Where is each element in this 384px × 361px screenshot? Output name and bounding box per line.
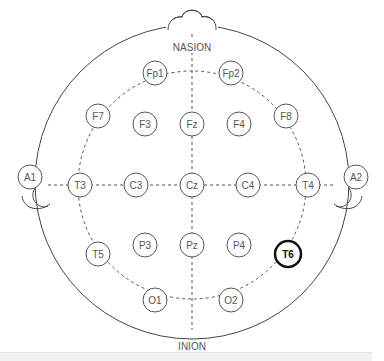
electrode-c4[interactable]: C4 — [236, 173, 260, 197]
electrode-p4[interactable]: P4 — [227, 233, 251, 257]
electrode-label: F3 — [139, 119, 151, 130]
electrode-label: F4 — [233, 119, 245, 130]
inion-label: INION — [178, 341, 206, 352]
electrode-t3[interactable]: T3 — [68, 173, 92, 197]
ear-electrode-label: A1 — [24, 172, 37, 183]
electrode-fp2[interactable]: Fp2 — [219, 61, 243, 85]
nasion-label: NASION — [173, 42, 211, 53]
electrode-o2[interactable]: O2 — [219, 288, 243, 312]
electrode-t5[interactable]: T5 — [86, 242, 110, 266]
electrode-f8[interactable]: F8 — [274, 104, 298, 128]
electrode-label: Fp2 — [222, 68, 240, 79]
electrode-label: O2 — [224, 295, 238, 306]
electrode-t6[interactable]: T6 — [275, 241, 301, 267]
electrode-t4[interactable]: T4 — [296, 173, 320, 197]
electrode-c3[interactable]: C3 — [124, 173, 148, 197]
electrode-fz[interactable]: Fz — [180, 112, 204, 136]
electrode-label: F7 — [92, 111, 104, 122]
electrode-label: T3 — [74, 180, 86, 191]
electrode-label: P3 — [139, 240, 152, 251]
electrode-label: T5 — [92, 249, 104, 260]
ear-electrode-label: A2 — [350, 172, 363, 183]
ear-electrode-a2[interactable]: A2 — [344, 165, 368, 189]
electrode-label: O1 — [148, 295, 162, 306]
electrode-label: Fz — [186, 119, 197, 130]
electrode-label: F8 — [280, 111, 292, 122]
electrode-cz[interactable]: Cz — [180, 173, 204, 197]
ear-electrode-a1[interactable]: A1 — [18, 165, 42, 189]
electrode-label: Cz — [186, 180, 198, 191]
electrode-o1[interactable]: O1 — [143, 288, 167, 312]
electrode-label: C3 — [130, 180, 143, 191]
electrode-label: Fp1 — [146, 68, 164, 79]
electrode-f4[interactable]: F4 — [227, 112, 251, 136]
electrode-label: Pz — [186, 240, 198, 251]
electrode-label: P4 — [233, 240, 246, 251]
electrode-f3[interactable]: F3 — [133, 112, 157, 136]
electrode-label: C4 — [242, 180, 255, 191]
electrode-f7[interactable]: F7 — [86, 104, 110, 128]
electrode-fp1[interactable]: Fp1 — [143, 61, 167, 85]
electrode-label: T4 — [302, 180, 314, 191]
electrode-pz[interactable]: Pz — [180, 233, 204, 257]
bottom-strip — [0, 352, 372, 361]
electrode-p3[interactable]: P3 — [133, 233, 157, 257]
electrode-label: T6 — [282, 249, 294, 260]
